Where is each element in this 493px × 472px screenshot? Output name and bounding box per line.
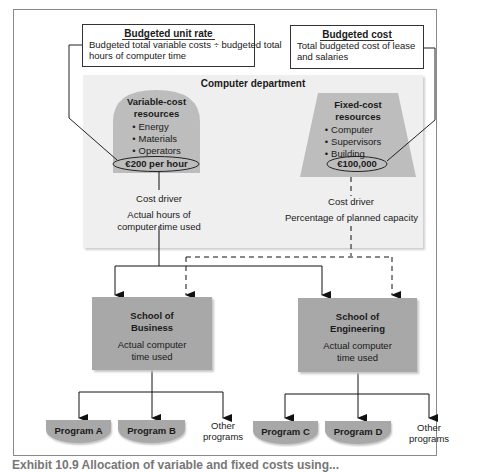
- list-item: Materials: [132, 133, 181, 145]
- school-name: Engineering: [298, 323, 417, 335]
- school-name: School of: [298, 311, 417, 323]
- variable-rate-label: €200 per hour: [113, 158, 200, 169]
- other-programs-business: Other programs: [198, 420, 248, 442]
- school-name: School of: [92, 310, 212, 322]
- cost-driver-text: Actual hours of: [104, 209, 214, 221]
- fixed-amount-label: €100,000: [327, 158, 387, 169]
- cost-driver-text: Percentage of planned capacity: [285, 212, 417, 224]
- other-label: programs: [404, 433, 454, 444]
- school-of-business: School ofBusiness Actual computer time u…: [92, 297, 212, 370]
- school-name: Business: [92, 322, 212, 334]
- budgeted-unit-rate-note: Budgeted unit rate Budgeted total variab…: [82, 24, 255, 67]
- variable-cost-driver: Cost driver Actual hours of computer tim…: [104, 193, 214, 233]
- school-of-engineering: School ofEngineering Actual computer tim…: [298, 298, 417, 372]
- list-item: Computer: [325, 124, 382, 136]
- budgeted-cost-note: Budgeted cost Total budgeted cost of lea…: [290, 25, 424, 69]
- resource-heading: resources: [113, 108, 200, 120]
- list-item: Operators: [132, 145, 181, 157]
- other-programs-engineering: Other programs: [404, 422, 454, 444]
- cost-driver-label: Cost driver: [285, 196, 417, 208]
- resource-list: Computer Supervisors Building: [325, 124, 382, 160]
- list-item: Energy: [132, 121, 181, 133]
- resource-heading: Fixed-cost: [300, 99, 416, 111]
- note-line: Budgeted total variable costs ÷ budgeted…: [89, 39, 248, 50]
- cost-driver-text: computer time used: [104, 221, 214, 233]
- resource-heading: Variable-cost: [113, 96, 200, 108]
- other-label: programs: [198, 431, 248, 442]
- note-line: Total budgeted cost of lease: [297, 40, 417, 51]
- resource-heading: resources: [300, 111, 416, 123]
- exhibit-caption: Exhibit 10.9 Allocation of variable and …: [12, 458, 339, 472]
- other-label: Other: [198, 420, 248, 431]
- note-line: hours of computer time: [89, 50, 248, 61]
- variable-cost-resources: Variable-cost resources Energy Materials…: [113, 96, 200, 157]
- fixed-cost-driver: Cost driver Percentage of planned capaci…: [285, 196, 417, 224]
- school-desc: Actual computer: [298, 340, 417, 352]
- list-item: Supervisors: [325, 136, 382, 148]
- other-label: Other: [404, 422, 454, 433]
- cost-driver-label: Cost driver: [104, 193, 214, 205]
- school-desc: time used: [92, 351, 212, 363]
- school-desc: time used: [298, 352, 417, 364]
- school-desc: Actual computer: [92, 339, 212, 351]
- fixed-cost-resources: Fixed-cost resources Computer Supervisor…: [300, 99, 416, 160]
- note-line: and salaries: [297, 51, 417, 62]
- resource-list: Energy Materials Operators: [132, 121, 181, 157]
